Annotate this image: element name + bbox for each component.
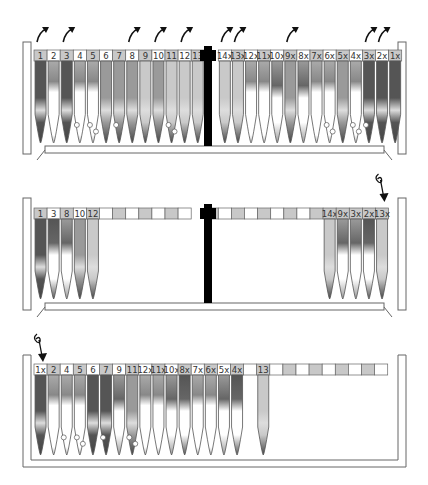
base-plate [45, 303, 384, 310]
tube [363, 219, 374, 299]
bead [350, 122, 355, 127]
slot-label: 6 [90, 365, 95, 375]
right-post [398, 198, 406, 310]
slot-label: 4 [77, 51, 82, 61]
slot-cell: 9 [139, 50, 152, 61]
slot-cell [271, 208, 284, 219]
slot-label: 1x [35, 365, 45, 375]
tube [114, 61, 125, 143]
bead [133, 441, 138, 446]
slot-cell: 1x [389, 50, 402, 61]
slot-label: 8x [298, 51, 308, 61]
tube [166, 375, 177, 455]
slot-cell [348, 364, 361, 375]
tube [74, 219, 85, 299]
tube [311, 61, 322, 143]
slot-cell: 13x [374, 208, 390, 219]
tube [87, 219, 98, 299]
tube [35, 219, 46, 299]
slot-cell: 12 [178, 50, 191, 61]
remove-arrow-icon [234, 27, 246, 42]
slot-cell: 6x [204, 364, 217, 375]
slot-label: 4x [232, 365, 242, 375]
slot-cell: 4 [73, 50, 86, 61]
bead [356, 129, 361, 134]
slot-cell: 9x [284, 50, 297, 61]
slot-label: 2 [51, 365, 56, 375]
slot-label: 5 [90, 51, 95, 61]
tube [337, 219, 348, 299]
tube [87, 375, 98, 455]
tube [192, 375, 203, 455]
remove-arrow-icon [181, 27, 193, 42]
slot-cell: 5x [217, 364, 230, 375]
slot-label: 8 [130, 51, 135, 61]
slot-cell [126, 208, 139, 219]
slot-cell: 1x [34, 364, 47, 375]
slot-cell: 8x [178, 364, 191, 375]
slot-cell: 9 [113, 364, 126, 375]
bead [93, 129, 98, 134]
slot-label: 3x [351, 209, 361, 219]
tube [127, 61, 138, 143]
slot-label: 12 [179, 51, 190, 61]
tube [114, 375, 125, 455]
slot-cell: 14x [322, 208, 338, 219]
bead [74, 122, 79, 127]
slot-label: 8x [179, 365, 189, 375]
slot-cell: 11 [165, 50, 178, 61]
remove-arrow-icon [221, 27, 233, 42]
rack-diagram-top: 1234567891011121314x13x12x11x10x9x8x7x6x… [0, 0, 428, 160]
slot-cell [113, 208, 126, 219]
tube [298, 61, 309, 143]
slot-label: 7x [311, 51, 321, 61]
left-post [23, 198, 31, 310]
tube [350, 61, 361, 143]
bead [172, 129, 177, 134]
slot-label: 10 [74, 209, 85, 219]
slot-cell: 4x [231, 364, 244, 375]
slot-cell [270, 364, 283, 375]
slot-cell: 6 [86, 364, 99, 375]
slot-label: 10x [164, 365, 180, 375]
tube [48, 219, 59, 299]
slot-cell [362, 364, 375, 375]
slot-cell: 2 [47, 364, 60, 375]
slot-cell [335, 364, 348, 375]
tube [179, 61, 190, 143]
slot-cell [218, 208, 231, 219]
slot-label: 14x [322, 209, 338, 219]
tube [166, 61, 177, 143]
panel-top: 1234567891011121314x13x12x11x10x9x8x7x6x… [0, 0, 428, 160]
slot-label: 6 [103, 51, 108, 61]
tube [74, 61, 85, 143]
tube [272, 61, 283, 143]
tube [337, 61, 348, 143]
slot-cell [152, 208, 165, 219]
tube [285, 61, 296, 143]
slot-label: 3 [64, 51, 69, 61]
remove-arrow-icon [379, 27, 391, 42]
tube [48, 375, 59, 455]
slot-cell: 5x [336, 50, 349, 61]
slot-cell: 4 [60, 364, 73, 375]
tube [153, 375, 164, 455]
slot-cell: 10x [269, 50, 285, 61]
bead [80, 441, 85, 446]
slot-cell: 3x [362, 50, 375, 61]
bead [74, 435, 79, 440]
slot-cell: 2x [376, 50, 389, 61]
slot-label: 4x [351, 51, 361, 61]
slot-label: 6x [206, 365, 216, 375]
slot-label: 11 [166, 51, 177, 61]
slot-cell: 7x [191, 364, 204, 375]
divider-cap [200, 50, 216, 61]
tube [259, 61, 270, 143]
tube [127, 375, 138, 455]
tube [179, 375, 190, 455]
left-post [23, 42, 31, 154]
slot-cell: 10 [73, 208, 86, 219]
slot-label: 13x [374, 209, 390, 219]
base-plate [45, 146, 384, 153]
slot-label: 5x [219, 365, 229, 375]
